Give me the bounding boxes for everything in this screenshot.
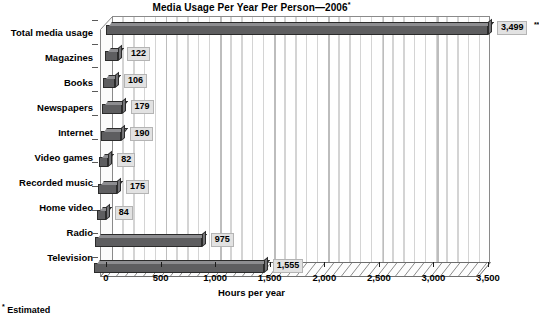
category-axis-tick xyxy=(92,44,98,45)
bar xyxy=(97,207,111,220)
bar-front-face xyxy=(99,157,108,167)
value-axis-tick-label: 2,000 xyxy=(312,272,336,283)
bar-side-face xyxy=(118,45,122,61)
bar-side-face xyxy=(108,151,112,167)
chart-title: Media Usage Per Year Per Person—2006* xyxy=(0,1,503,13)
value-axis-tick xyxy=(215,262,216,267)
category-axis-tick xyxy=(92,91,98,92)
bar-top-face xyxy=(98,234,207,238)
bar-value-label: 179 xyxy=(131,100,154,114)
bar-value-label: 975 xyxy=(211,233,234,247)
bar-value-label: 122 xyxy=(127,47,150,61)
bar-side-face xyxy=(202,230,206,246)
chart-title-footnote-marker: * xyxy=(348,1,351,8)
bar-top-face xyxy=(109,22,494,26)
bar-front-face xyxy=(97,210,106,220)
bar xyxy=(106,22,493,35)
bar-front-face xyxy=(98,184,117,194)
bar xyxy=(102,101,127,114)
category-axis-tick xyxy=(92,162,98,163)
bar-front-face xyxy=(95,237,201,247)
category-label: Television xyxy=(0,253,93,263)
chart-footnote: * Estimated xyxy=(2,303,50,315)
value-axis-tick-label: 1,500 xyxy=(258,272,282,283)
category-label: Home video xyxy=(0,203,93,213)
category-label: Radio xyxy=(0,228,93,238)
value-axis-tick xyxy=(488,262,489,267)
category-axis-tick xyxy=(92,115,98,116)
value-axis-tick-label: 3,500 xyxy=(476,272,500,283)
footnote-marker: * xyxy=(2,303,5,310)
value-axis-tick xyxy=(270,262,271,267)
bar-value-footnote-marker: ** xyxy=(534,21,539,28)
value-axis-tick xyxy=(324,262,325,267)
bar-value-label: 3,499 xyxy=(497,21,528,35)
bar-side-face xyxy=(106,204,110,220)
category-label: Magazines xyxy=(0,53,93,63)
category-axis-tick xyxy=(92,139,98,140)
category-label: Newspapers xyxy=(0,103,93,113)
bar xyxy=(105,48,123,61)
footnote-text: Estimated xyxy=(7,305,50,315)
category-label: Recorded music xyxy=(0,178,93,188)
bar-side-face xyxy=(488,19,492,35)
value-axis-ticks xyxy=(100,262,503,272)
value-axis-tick xyxy=(161,262,162,267)
category-axis-tick xyxy=(92,67,98,68)
category-label: Video games xyxy=(0,153,93,163)
category-label: Books xyxy=(0,78,93,88)
value-axis-tick-labels: 05001,0001,5002,0002,5003,0003,500 xyxy=(0,272,503,286)
value-axis-title: Hours per year xyxy=(0,287,503,298)
bar xyxy=(95,234,206,247)
bar-side-face xyxy=(117,177,121,193)
bar-value-label: 190 xyxy=(130,127,153,141)
bar-side-face xyxy=(121,124,125,140)
value-axis-tick-label: 0 xyxy=(103,272,108,283)
plot-area: 3,499**12210617919082175849751,555 xyxy=(100,16,503,278)
category-axis-tick xyxy=(92,20,98,21)
bar-value-label: 175 xyxy=(126,180,149,194)
value-axis-tick xyxy=(379,262,380,267)
value-axis-tick-label: 3,000 xyxy=(422,272,446,283)
bar-side-face xyxy=(122,98,126,114)
category-axis-tick xyxy=(92,257,98,258)
bar-value-label: 106 xyxy=(124,74,147,88)
bar-side-face xyxy=(115,72,119,88)
bar-front-face xyxy=(103,78,115,88)
bar-value-label: 82 xyxy=(117,153,135,167)
value-axis-tick-label: 500 xyxy=(153,272,169,283)
value-axis-tick xyxy=(433,262,434,267)
bar-front-face xyxy=(106,25,488,35)
bar-front-face xyxy=(102,104,122,114)
category-axis-labels: Total media usageMagazinesBooksNewspaper… xyxy=(0,18,97,271)
category-label: Internet xyxy=(0,128,93,138)
bar xyxy=(98,181,122,194)
value-axis-tick xyxy=(106,262,107,267)
bar-series: 3,499**12210617919082175849751,555 xyxy=(100,16,503,278)
bar xyxy=(99,154,113,167)
bar xyxy=(103,75,120,88)
bar xyxy=(101,128,127,141)
bar-front-face xyxy=(105,51,118,61)
value-axis-tick-label: 1,000 xyxy=(203,272,227,283)
value-axis-tick-label: 2,500 xyxy=(367,272,391,283)
bar-front-face xyxy=(101,131,122,141)
category-label: Total media usage xyxy=(0,28,93,38)
bar-value-label: 84 xyxy=(115,206,133,220)
chart-title-text: Media Usage Per Year Per Person—2006 xyxy=(152,2,347,13)
